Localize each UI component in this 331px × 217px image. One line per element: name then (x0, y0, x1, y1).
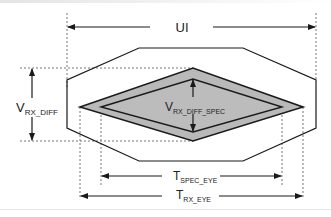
ui-label: UI (176, 20, 189, 35)
t-rx-eye-label: TRX_EYE (176, 188, 211, 204)
eye-diamond-inner (101, 79, 282, 132)
t-spec-eye-label: TSPEC_EYE (173, 169, 218, 185)
v-rx-diff-label: VRX_DIFF (16, 100, 58, 117)
eye-diagram: UI VRX_DIFF VRX_DIFF_SPEC TSPEC_EYE TRX_… (0, 0, 331, 217)
